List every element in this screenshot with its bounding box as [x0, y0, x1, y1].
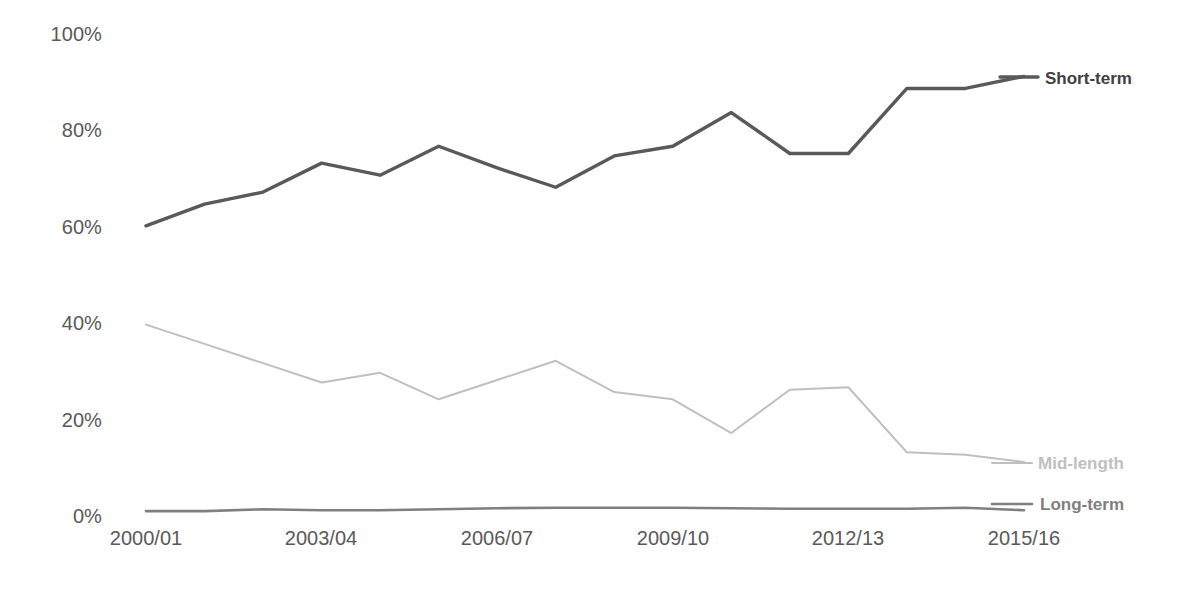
legend-label-long-term: Long-term — [1040, 496, 1124, 513]
x-tick-label: 2000/01 — [110, 528, 182, 548]
chart-svg — [0, 0, 1197, 593]
x-tick-label: 2009/10 — [637, 528, 709, 548]
legend-label-mid-length: Mid-length — [1038, 455, 1124, 472]
x-tick-label: 2003/04 — [285, 528, 357, 548]
x-axis: 2000/01 2003/04 2006/07 2009/10 2012/13 … — [0, 528, 1197, 562]
legend-label-short-term: Short-term — [1045, 70, 1132, 87]
x-tick-label: 2006/07 — [461, 528, 533, 548]
plot-area — [0, 0, 1197, 593]
series-group — [146, 76, 1038, 511]
series-line-mid-length — [146, 325, 1024, 462]
series-line-short-term — [146, 76, 1024, 225]
series-line-long-term — [146, 508, 1024, 511]
chart-page: 100% 80% 60% 40% 20% 0% 2000/01 2003/04 … — [0, 0, 1197, 593]
x-tick-label: 2015/16 — [988, 528, 1060, 548]
x-tick-label: 2012/13 — [812, 528, 884, 548]
